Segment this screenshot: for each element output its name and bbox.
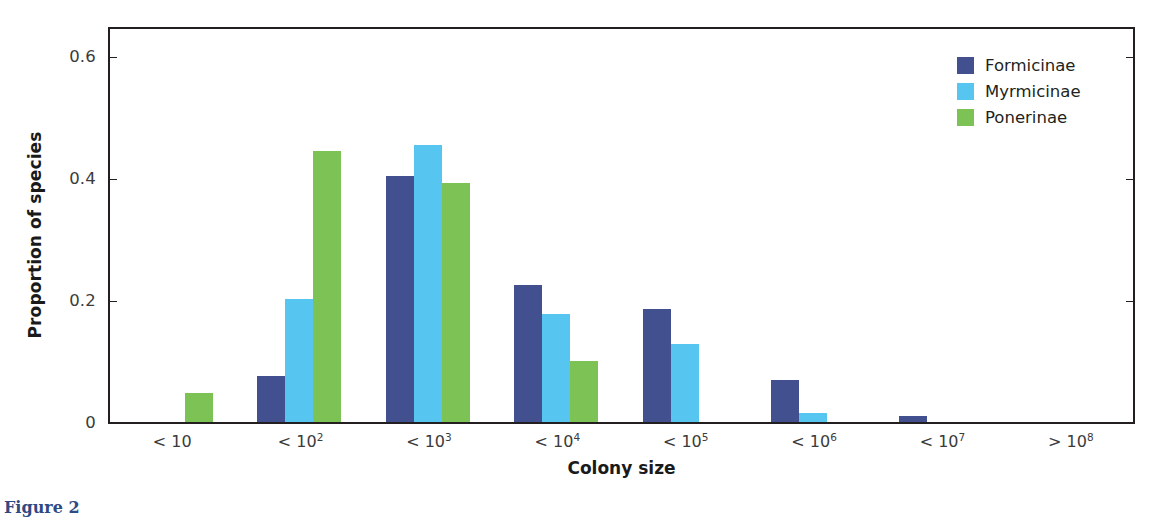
bar xyxy=(643,309,671,422)
legend-label: Formicinae xyxy=(985,56,1076,75)
bar xyxy=(514,285,542,422)
bar xyxy=(257,376,285,422)
legend-label: Ponerinae xyxy=(985,108,1067,127)
x-axis-tick-label: < 107 xyxy=(878,432,1006,451)
y-axis-tick-label: 0.6 xyxy=(69,47,96,66)
y-axis-tick-right xyxy=(1126,301,1135,302)
y-axis-tick-right xyxy=(1126,57,1135,58)
bar xyxy=(570,361,598,422)
y-axis-tick-right xyxy=(1126,423,1135,424)
legend-swatch-icon xyxy=(957,109,974,126)
bar xyxy=(285,299,313,422)
legend-label: Myrmicinae xyxy=(985,82,1081,101)
legend-swatch-icon xyxy=(957,83,974,100)
bar xyxy=(185,393,213,422)
y-axis-tick-left xyxy=(108,57,117,58)
x-axis-tick-label: < 103 xyxy=(365,432,493,451)
bar xyxy=(442,183,470,422)
x-axis-tick-label: < 106 xyxy=(750,432,878,451)
y-axis-tick-label: 0 xyxy=(85,413,96,432)
x-axis-tick-label: < 105 xyxy=(622,432,750,451)
figure-caption: Figure 2 xyxy=(4,498,80,517)
bar xyxy=(313,151,341,422)
bar xyxy=(414,145,442,422)
y-axis-tick-left xyxy=(108,423,117,424)
bar xyxy=(771,380,799,422)
y-axis-tick-left xyxy=(108,179,117,180)
y-axis-tick-left xyxy=(108,301,117,302)
legend: FormicinaeMyrmicinaePonerinae xyxy=(957,52,1081,130)
figure-2-container: Proportion of species 00.20.40.6 < 10< 1… xyxy=(0,0,1169,528)
legend-item: Ponerinae xyxy=(957,104,1081,130)
x-axis-tick-label: < 10 xyxy=(108,432,236,451)
legend-item: Myrmicinae xyxy=(957,78,1081,104)
y-axis-tick-label: 0.4 xyxy=(69,169,96,188)
bar xyxy=(671,344,699,422)
y-axis-tick-label: 0.2 xyxy=(69,291,96,310)
bar xyxy=(542,314,570,422)
bar xyxy=(899,416,927,422)
x-axis-tick-label: > 108 xyxy=(1007,432,1135,451)
x-axis-title: Colony size xyxy=(108,458,1135,478)
x-axis-tick-label: < 102 xyxy=(236,432,364,451)
x-axis-tick-label: < 104 xyxy=(493,432,621,451)
legend-item: Formicinae xyxy=(957,52,1081,78)
bar xyxy=(386,176,414,422)
legend-swatch-icon xyxy=(957,57,974,74)
y-axis-tick-right xyxy=(1126,179,1135,180)
bar xyxy=(799,413,827,422)
y-axis-title: Proportion of species xyxy=(25,120,45,350)
